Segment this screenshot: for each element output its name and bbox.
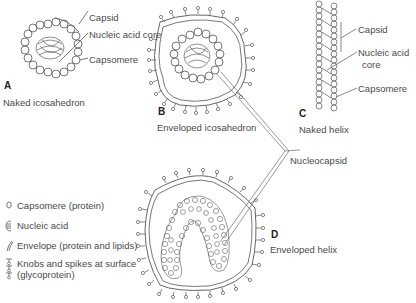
panel-c-capsomere-label: Capsomere — [358, 83, 407, 94]
panel-c-capsid-label: Capsid — [358, 24, 388, 35]
legend-spikes-label-2: (glycoprotein) — [17, 269, 136, 280]
panel-c-letter: C — [299, 108, 306, 119]
panel-c-caption: Naked helix — [299, 124, 349, 135]
legend-item-envelope: Envelope (protein and lipids) — [4, 240, 137, 254]
legend-item-capsomere: Capsomere (protein) — [4, 200, 104, 212]
panel-a-letter: A — [4, 80, 11, 91]
panel-b-caption: Enveloped icosahedron — [157, 122, 256, 133]
spike-icon — [4, 258, 14, 282]
legend-spikes-label: Knobs and spikes at surface — [17, 258, 136, 269]
panel-a-nucleic-acid-core-label: Nucleic acid core — [89, 29, 161, 40]
panel-c-core-label: core — [362, 59, 380, 70]
panel-a-caption: Naked icosahedron — [3, 97, 85, 108]
naked-helix-drawing — [316, 1, 357, 111]
enveloped-helix-drawing — [136, 168, 264, 298]
legend-nucleic-acid-label: Nucleic acid — [17, 220, 68, 231]
panel-a-capsid-label: Capsid — [89, 12, 119, 23]
panel-c-nucleic-acid-label: Nucleic acid — [358, 47, 409, 58]
legend-item-nucleic-acid: Nucleic acid — [4, 220, 68, 234]
naked-icosahedron-drawing — [21, 11, 88, 78]
legend-envelope-label: Envelope (protein and lipids) — [17, 240, 137, 251]
envelope-icon — [4, 240, 14, 254]
legend-capsomere-label: Capsomere (protein) — [17, 200, 104, 211]
panel-d-caption: Enveloped helix — [270, 244, 337, 255]
capsomere-icon — [4, 200, 14, 212]
nucleic-acid-icon — [4, 220, 14, 234]
panel-b-letter: B — [158, 106, 165, 117]
nucleocapsid-label: Nucleocapsid — [290, 155, 347, 166]
panel-a-capsomere-label: Capsomere — [89, 54, 138, 65]
panel-d-letter: D — [271, 229, 278, 240]
legend-item-spikes: Knobs and spikes at surface (glycoprotei… — [4, 258, 136, 282]
